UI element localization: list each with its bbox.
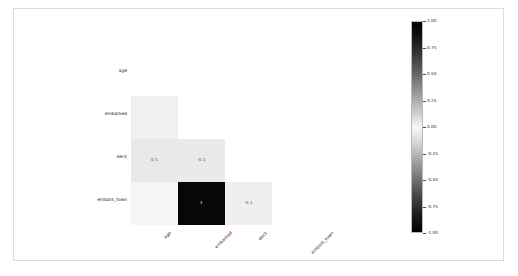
x-tick-embarked: embarked <box>214 231 233 250</box>
y-tick-embarked: embarked <box>105 112 127 116</box>
heatmap-cell: -0.1 <box>178 139 225 182</box>
colorbar-tick: 0.50 <box>427 72 436 76</box>
heatmap-cell: 1 <box>178 182 225 225</box>
heatmap-grid: 0.1 -0.1 1 -0.1 <box>131 53 319 225</box>
x-tick-deck: deck <box>258 231 269 242</box>
y-axis-ticks: age embarked deck embark_town <box>14 53 127 269</box>
cell-value: 1 <box>200 201 203 205</box>
colorbar-gradient <box>411 21 423 233</box>
colorbar-tick: 1.00 <box>427 19 436 23</box>
figure-canvas: age embarked deck embark_town 0.1 -0.1 1… <box>13 8 504 261</box>
heatmap-cell: 0.1 <box>131 139 178 182</box>
colorbar-tick: -0.50 <box>427 178 438 182</box>
x-tick-embark-town: embark_town <box>311 231 335 255</box>
colorbar-tick: 0.00 <box>427 125 436 129</box>
cell-value: -0.1 <box>197 158 206 162</box>
heatmap-cell <box>131 96 178 139</box>
colorbar-tick: 0.75 <box>427 46 436 50</box>
cell-value: -0.1 <box>244 201 253 205</box>
y-tick-age: age <box>119 69 127 73</box>
colorbar-tick: -1.00 <box>427 231 438 235</box>
x-tick-age: age <box>163 231 172 240</box>
heatmap-cell: -0.1 <box>225 182 272 225</box>
x-axis-ticks: age embarked deck embark_town <box>131 227 361 275</box>
y-tick-deck: deck <box>117 155 127 159</box>
heatmap-cell <box>131 182 178 225</box>
colorbar-tick: -0.75 <box>427 205 438 209</box>
cell-value: 0.1 <box>151 158 158 162</box>
colorbar-ticks: 1.00 0.75 0.50 0.25 0.00 -0.25 -0.50 -0.… <box>423 21 463 233</box>
y-tick-embark-town: embark_town <box>97 198 127 202</box>
colorbar-tick: -0.25 <box>427 152 438 156</box>
colorbar-tick: 0.25 <box>427 99 436 103</box>
